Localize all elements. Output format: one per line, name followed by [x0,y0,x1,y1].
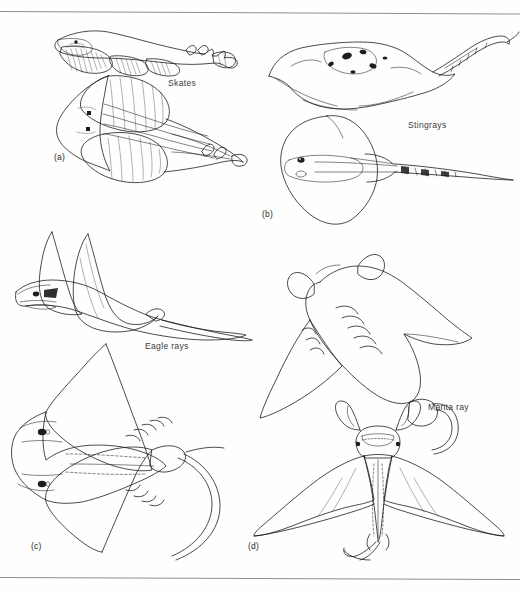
panel-manta-ray [252,234,520,560]
label-eagle-rays: Eagle rays [145,341,189,351]
skate-illustration [0,14,250,214]
panel-letter-d: (d) [248,541,259,551]
panel-stingrays [255,14,520,226]
eagle-ray-eye-right [38,481,46,487]
panel-letter-a: (a) [54,152,65,162]
manta-ventral-view [254,401,504,560]
eagle-ray-eye-left [38,429,46,435]
eagle-ray-eye [33,292,39,297]
panel-skates [0,14,250,214]
skate-lateral-view [55,31,237,76]
label-stingrays: Stingrays [408,120,447,130]
skate-spiracle-left [87,111,91,115]
stingray-dorsal-view [281,116,513,225]
skate-dorsal-view [56,76,247,183]
label-skates: Skates [168,78,196,88]
stingray-spiracle [296,171,306,177]
skate-spiracle-right [86,127,90,131]
manta-oblique-view [260,254,472,454]
manta-eye-right [396,442,400,446]
bottom-rule [0,577,520,580]
eagle-ray-illustration [0,222,252,560]
label-manta-ray: Manta ray [428,402,469,412]
stingray-oblique-view [269,32,519,110]
panel-letter-c: (c) [31,541,42,551]
manta-eye-left [356,442,360,446]
stingray-illustration [255,14,520,226]
eagle-ray-ventral-view [12,344,225,560]
panel-eagle-rays [0,222,252,560]
eagle-ray-lateral-view [15,232,252,341]
panel-letter-b: (b) [262,209,273,219]
manta-ray-illustration [252,234,520,560]
figure-plate: Skates Stingrays Eagle rays Manta ray (a… [0,0,520,590]
